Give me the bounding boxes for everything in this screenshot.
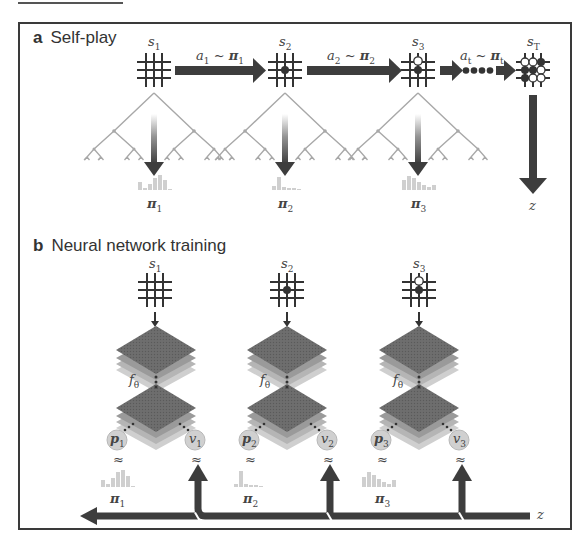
outcome-label-b: z xyxy=(537,507,544,522)
search-policy-label-3: π3 xyxy=(411,196,426,214)
nn-board-s2 xyxy=(270,273,304,307)
approx-v2: ≈ xyxy=(323,452,334,467)
approx-p1: ≈ xyxy=(113,452,124,467)
approx-p2: ≈ xyxy=(245,452,256,467)
target-policy-label-2: π2 xyxy=(243,491,258,509)
diagram-canvas xyxy=(0,0,588,552)
network-label-3: fθ xyxy=(393,372,403,390)
state-label-sT: sT xyxy=(527,34,540,52)
value-output-v1: v1 xyxy=(189,431,202,449)
board-sT xyxy=(516,53,550,87)
board-s1 xyxy=(137,53,171,87)
state-label-s3: s3 xyxy=(412,34,424,52)
target-policy-label-1: π1 xyxy=(110,491,125,509)
target-histogram-2 xyxy=(234,471,263,487)
nn-board-s3 xyxy=(402,273,436,307)
state-label-s2: s2 xyxy=(279,34,291,52)
layer-ellipsis-2 xyxy=(286,376,289,389)
panel-a-letter: a xyxy=(33,28,42,47)
nn-state-label-1: s1 xyxy=(149,256,161,274)
panel-a-label: aSelf-play xyxy=(33,28,117,48)
approx-p3: ≈ xyxy=(377,452,388,467)
outcome-arrow xyxy=(519,95,547,194)
input-arrow-2 xyxy=(283,312,291,327)
value-target-arrow xyxy=(95,478,530,516)
policy-output-p1: p1 xyxy=(110,431,125,449)
approx-v3: ≈ xyxy=(455,452,466,467)
ellipsis-dots xyxy=(463,67,494,74)
panel-b-label: bNeural network training xyxy=(33,236,226,256)
approx-v1: ≈ xyxy=(191,452,202,467)
transition-label-2: a2 ~ π2 xyxy=(327,48,375,66)
panel-a-title: Self-play xyxy=(50,28,116,47)
network-label-1: fθ xyxy=(129,372,139,390)
target-histogram-3 xyxy=(362,472,396,487)
layer-ellipsis-1 xyxy=(155,376,158,389)
policy-histogram-3 xyxy=(402,176,436,190)
input-arrow-1 xyxy=(151,312,159,327)
layer-ellipsis-3 xyxy=(418,376,421,389)
outcome-label-a: z xyxy=(529,198,536,213)
transition-label-t: at ~ πt xyxy=(460,48,504,66)
mcts-arrow-3 xyxy=(408,114,428,176)
value-output-v3: v3 xyxy=(453,431,466,449)
network-layers-1-bottom xyxy=(116,384,196,450)
panel-b-letter: b xyxy=(33,236,43,255)
policy-output-p2: p2 xyxy=(242,431,257,449)
panel-b-title: Neural network training xyxy=(51,236,226,255)
policy-histogram-1 xyxy=(138,175,172,190)
value-output-v2: v2 xyxy=(321,431,334,449)
nn-state-label-2: s2 xyxy=(281,256,293,274)
search-policy-label-1: π1 xyxy=(147,196,162,214)
board-s2 xyxy=(268,53,302,87)
input-arrow-3 xyxy=(415,312,423,327)
target-histogram-1 xyxy=(101,470,135,487)
search-policy-label-2: π2 xyxy=(278,196,293,214)
nn-board-s1 xyxy=(138,273,172,307)
board-s3 xyxy=(401,53,435,87)
mcts-arrow-2 xyxy=(275,114,295,176)
mcts-arrow-1 xyxy=(144,114,164,176)
transition-label-1: a1 ~ π1 xyxy=(196,48,244,66)
network-label-2: fθ xyxy=(260,372,270,390)
target-policy-label-3: π3 xyxy=(375,491,390,509)
policy-output-p3: p3 xyxy=(374,431,389,449)
nn-state-label-3: s3 xyxy=(413,256,425,274)
policy-histogram-2 xyxy=(272,177,301,190)
state-label-s1: s1 xyxy=(148,34,160,52)
